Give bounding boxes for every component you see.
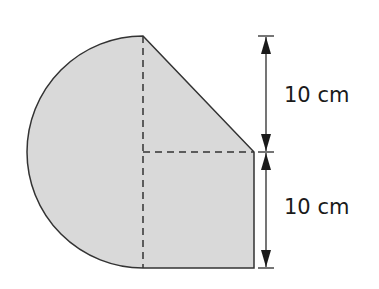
lower-dimension-arrow (261, 153, 271, 267)
upper-dimension-arrow (261, 37, 271, 151)
lower-dimension-label: 10 cm (284, 195, 349, 219)
upper-dimension-label: 10 cm (284, 83, 349, 107)
composite-shape-diagram: 10 cm 10 cm (0, 0, 379, 289)
